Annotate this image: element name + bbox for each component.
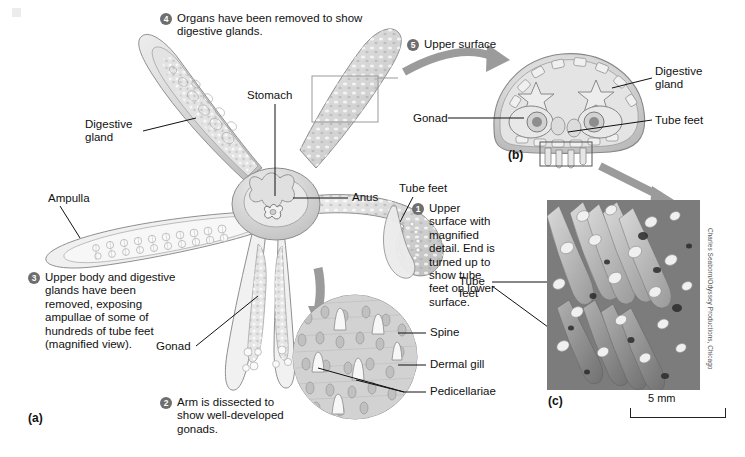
label-dermal-gill: Dermal gill [430, 358, 484, 371]
label-stomach: Stomach [247, 89, 292, 102]
tube-feet-photograph [547, 200, 700, 390]
panel-label-a: (a) [28, 411, 43, 425]
callout-2-text: Arm is dissected to show well-developed … [177, 396, 300, 436]
label-pedicellariae: Pedicellariae [430, 385, 496, 398]
callout-4-number: 4 [160, 13, 172, 25]
label-digestive-gland-a: Digestive gland [85, 118, 147, 144]
callout-1-number: 1 [412, 203, 424, 215]
label-tube-feet-a: Tube feet [399, 182, 447, 195]
label-digestive-gland-b: Digestive gland [655, 65, 717, 91]
callout-5-number: 5 [407, 39, 419, 51]
callout-5: 5 Upper surface [407, 38, 537, 51]
label-gonad-a: Gonad [156, 340, 191, 353]
callout-4: 4 Organs have been removed to show diges… [160, 12, 375, 39]
label-anus: Anus [352, 191, 378, 204]
label-tube-feet-b: Tube feet [655, 114, 703, 127]
callout-4-text: Organs have been removed to show digesti… [177, 12, 375, 39]
scale-bar [630, 408, 726, 418]
label-gonad-b: Gonad [413, 112, 448, 125]
scale-bar-value: 5 mm [648, 392, 676, 404]
callout-5-text: Upper surface [424, 38, 537, 51]
callout-2-number: 2 [160, 397, 172, 409]
figure-canvas: 4 Organs have been removed to show diges… [0, 0, 745, 457]
callout-2: 2 Arm is dissected to show well-develope… [160, 396, 300, 436]
photo-credit: Charles Seaborn/Odyssey Productions, Chi… [707, 228, 714, 370]
label-ampulla: Ampulla [48, 192, 90, 205]
panel-label-b: (b) [508, 148, 523, 162]
panel-label-c: (c) [548, 394, 563, 408]
callout-3-number: 3 [28, 272, 40, 284]
label-tube-feet-c: Tube feet [459, 275, 493, 299]
label-spine: Spine [430, 326, 459, 339]
